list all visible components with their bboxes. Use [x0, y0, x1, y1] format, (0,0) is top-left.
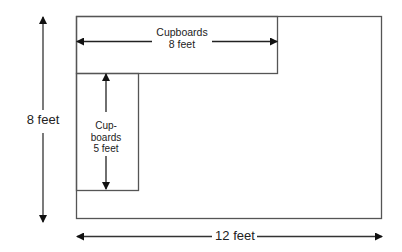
side-cupboards-line2: boards — [86, 132, 126, 144]
height-label: 8 feet — [20, 113, 66, 128]
top-cupboards-line2: 8 feet — [150, 38, 214, 50]
height-label-text: 8 feet — [27, 112, 60, 127]
side-cupboards-line1: Cup- — [86, 120, 126, 132]
top-cupboards-label: Cupboards 8 feet — [150, 26, 214, 50]
width-label: 12 feet — [211, 229, 259, 244]
top-cupboards-line1: Cupboards — [150, 26, 214, 38]
side-cupboards-line3: 5 feet — [86, 143, 126, 155]
side-cupboards-label: Cup- boards 5 feet — [86, 120, 126, 155]
room-outline — [77, 17, 382, 219]
width-label-text: 12 feet — [215, 228, 255, 243]
